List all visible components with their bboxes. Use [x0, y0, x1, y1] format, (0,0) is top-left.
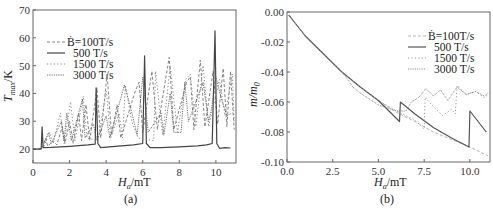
- figure: 203040506070 0246810 Ḃ=100T/s500 T/s1500…: [0, 0, 493, 209]
- x-tick-label: 10: [210, 166, 222, 178]
- legend-b: Ḃ=100T/s500 T/s1500 T/s3000 T/s: [408, 29, 475, 75]
- panel-a-temperature-chart: 203040506070 0246810 Ḃ=100T/s500 T/s1500…: [1, 4, 236, 206]
- y-tick-label: 70: [19, 4, 31, 16]
- x-axis-label-b: Ha/mT: [373, 175, 407, 191]
- x-tick-label: 2: [67, 166, 73, 178]
- y-tick-label: -0.02: [261, 36, 284, 48]
- caption-b: (b): [380, 192, 394, 206]
- x-tick-label: 2.5: [326, 165, 340, 177]
- y-tick-label: -0.06: [261, 96, 284, 108]
- x-tick-label: 7.5: [417, 165, 431, 177]
- x-tick-label: 8: [177, 166, 183, 178]
- y-tick-label: 30: [19, 115, 31, 127]
- y-axis-ticks-b: 0.00-0.02-0.04-0.06-0.08-0.10: [261, 6, 290, 168]
- x-axis-label-a: Ha/mT: [117, 175, 151, 191]
- y-tick-label: 40: [19, 87, 31, 99]
- panel-b-magnetization-chart: 0.00-0.02-0.04-0.06-0.08-0.10 0.02.55.07…: [246, 6, 490, 206]
- legend-a: Ḃ=100T/s500 T/s1500 T/s3000 T/s: [47, 35, 114, 81]
- y-tick-label: 60: [19, 32, 31, 44]
- series-group-a: [33, 31, 234, 149]
- caption-a: (a): [124, 192, 137, 206]
- legend-label: 3000 T/s: [73, 69, 114, 81]
- x-tick-label: 4: [103, 166, 109, 178]
- legend-label: 3000 T/s: [434, 63, 475, 75]
- y-tick-label: 20: [19, 143, 31, 155]
- y-axis-label-a: Tmax/K: [1, 70, 17, 102]
- y-tick-label: -0.04: [261, 66, 284, 78]
- x-tick-label: 0: [30, 166, 36, 178]
- x-tick-label: 0.0: [280, 165, 294, 177]
- x-tick-label: 10.0: [460, 165, 480, 177]
- y-tick-label: 50: [19, 60, 31, 72]
- y-tick-label: -0.08: [261, 126, 284, 138]
- y-tick-label: 0.00: [265, 6, 285, 18]
- y-axis-label-b: m/m0: [246, 82, 262, 107]
